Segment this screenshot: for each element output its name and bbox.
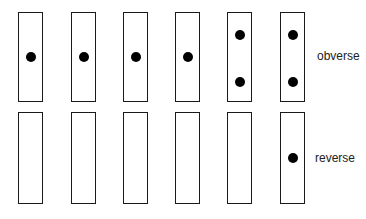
- card-2-obverse: [71, 12, 96, 102]
- dot-lower: [288, 77, 298, 87]
- card-5-reverse: [227, 112, 252, 204]
- dot-middle: [183, 52, 193, 62]
- dot-middle: [79, 52, 89, 62]
- card-6-reverse: [280, 112, 305, 204]
- dot-middle: [288, 153, 298, 163]
- dot-lower: [235, 77, 245, 87]
- dot-middle: [131, 52, 141, 62]
- card-3-reverse: [123, 112, 148, 204]
- obverse-label: obverse: [317, 49, 360, 63]
- card-4-reverse: [175, 112, 200, 204]
- card-5-obverse: [227, 12, 252, 102]
- card-4-obverse: [175, 12, 200, 102]
- dot-middle: [26, 52, 36, 62]
- card-2-reverse: [71, 112, 96, 204]
- card-6-obverse: [280, 12, 305, 102]
- dot-upper: [288, 30, 298, 40]
- card-3-obverse: [123, 12, 148, 102]
- dot-upper: [235, 30, 245, 40]
- card-1-obverse: [18, 12, 43, 102]
- card-1-reverse: [18, 112, 43, 204]
- reverse-label: reverse: [315, 151, 355, 165]
